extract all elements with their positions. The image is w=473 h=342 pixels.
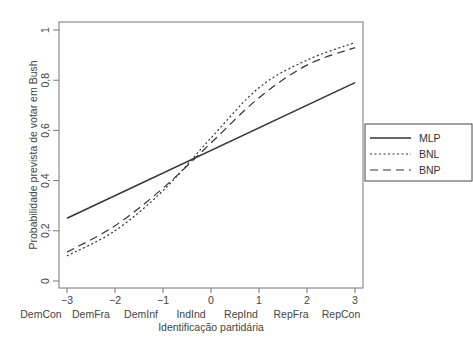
y-tick-label: 1 (39, 27, 51, 33)
x-category-label: DemFra (72, 308, 110, 320)
series-layer (67, 43, 355, 256)
x-axis: −3DemCon−2DemFra−1DemInf0IndInd1RepInd2R… (20, 288, 360, 320)
x-tick-label: −1 (157, 294, 169, 306)
y-axis-title: Probabilidade prevista de votar em Bush (27, 60, 39, 249)
x-category-label: RepFra (273, 308, 308, 320)
y-tick-label: 0,8 (39, 73, 51, 88)
y-tick-label: 0 (39, 278, 51, 284)
legend-label-bnp: BNP (419, 164, 441, 176)
y-tick-label: 0,6 (39, 123, 51, 138)
series-line-mlp (67, 83, 355, 219)
y-axis: 00,20,40,60,81 (39, 27, 59, 284)
x-category-label: DemCon (20, 308, 62, 320)
x-category-label: IndInd (176, 308, 205, 320)
series-line-bnl (67, 43, 355, 256)
x-tick-label: 0 (208, 294, 214, 306)
x-tick-label: 1 (256, 294, 262, 306)
legend: MLPBNLBNP (365, 124, 472, 181)
x-category-label: RepInd (224, 308, 258, 320)
legend-label-bnl: BNL (419, 148, 440, 160)
x-tick-label: −3 (61, 294, 73, 306)
x-category-label: RepCon (322, 308, 361, 320)
y-tick-label: 0,2 (39, 223, 51, 238)
line-chart: 00,20,40,60,81 −3DemCon−2DemFra−1DemInf0… (0, 0, 473, 342)
x-tick-label: −2 (109, 294, 121, 306)
x-tick-label: 2 (304, 294, 310, 306)
plot-frame (59, 22, 363, 288)
x-category-label: DemInf (124, 308, 158, 320)
legend-label-mlp: MLP (419, 132, 441, 144)
y-tick-label: 0,4 (39, 173, 51, 188)
x-tick-label: 3 (352, 294, 358, 306)
x-axis-title: Identificação partidária (158, 321, 264, 333)
